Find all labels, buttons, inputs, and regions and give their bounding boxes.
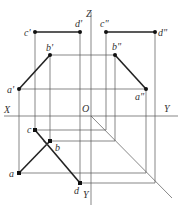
- label-d: d: [74, 185, 80, 196]
- line-a-b-front: [19, 55, 50, 89]
- line-c-d-top: [35, 130, 80, 183]
- projection-diagram: Z X O Y Y c' d' b' a' c" d" b" a" c b a …: [0, 0, 183, 212]
- label-x: X: [3, 104, 11, 115]
- label-y-right: Y: [164, 103, 171, 114]
- label-c: c: [27, 124, 32, 135]
- construction-lines: [4, 12, 178, 205]
- label-o: O: [82, 103, 89, 114]
- label-z: Z: [86, 8, 92, 19]
- label-b-prime: b': [46, 42, 54, 53]
- line-a-b-top: [19, 141, 50, 173]
- label-d-dprime: d": [158, 27, 168, 38]
- label-c-prime: c': [24, 27, 31, 38]
- label-a-prime: a': [7, 84, 15, 95]
- label-a-dprime: a": [135, 91, 145, 102]
- label-a: a: [9, 168, 14, 179]
- label-b-dprime: b": [112, 41, 122, 52]
- line-a-b-side: [115, 55, 146, 89]
- label-y-bottom: Y: [83, 189, 90, 200]
- label-c-dprime: c": [100, 18, 109, 29]
- label-d-prime: d': [75, 18, 83, 29]
- label-b: b: [55, 142, 60, 153]
